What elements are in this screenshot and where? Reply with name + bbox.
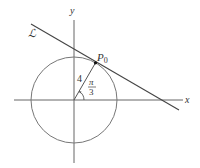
x-axis-label: x	[184, 94, 190, 105]
diagram-canvas: y x ℒ P0 4 π 3	[0, 0, 200, 168]
y-axis-label: y	[69, 5, 75, 16]
radius-label: 4	[77, 73, 82, 84]
point-label-sub: 0	[104, 56, 108, 65]
angle-numerator: π	[89, 77, 94, 87]
tangent-line	[31, 24, 179, 110]
point-label: P0	[96, 51, 108, 65]
line-label: ℒ	[28, 27, 37, 39]
angle-denominator: 3	[89, 87, 94, 97]
